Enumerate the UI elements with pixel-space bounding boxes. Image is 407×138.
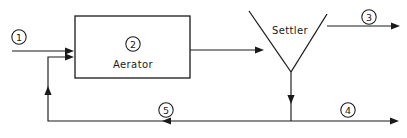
stream-3-effluent: 3 (327, 10, 400, 30)
stream-settler-underflow (287, 72, 294, 121)
tag-label-4: 4 (345, 105, 351, 116)
tag-label-3: 3 (366, 12, 372, 23)
stream-3-arrowhead (391, 22, 400, 29)
stream-4-arrowhead (390, 117, 399, 124)
tag-label-1: 1 (16, 32, 22, 43)
stream-5-arrowhead-riser (44, 86, 51, 95)
aerator-unit-label: Aerator (113, 59, 153, 70)
stream-3-tag-marker: 3 (362, 10, 376, 24)
stream-1-tag-marker: 1 (12, 30, 26, 44)
stream-5-arrowhead-inlet (65, 53, 74, 60)
tag-label-5: 5 (163, 105, 169, 116)
flow-diagram-canvas: 2 Aerator Settler 1 (0, 0, 407, 138)
stream-1-influent: 1 (12, 30, 74, 55)
settler-right-wall (291, 14, 327, 72)
stream-5-recycle-sludge: 5 (44, 53, 291, 124)
stream-1-arrowhead (65, 47, 74, 54)
stream-5-tag-marker: 5 (159, 103, 173, 117)
stream-4-waste-sludge: 4 (291, 103, 399, 125)
stream-4-tag-marker: 4 (341, 103, 355, 117)
unit-settler: Settler (249, 11, 327, 72)
settler-left-wall (249, 11, 291, 72)
unit-aerator: 2 Aerator (75, 16, 190, 78)
tag-label-2: 2 (130, 39, 136, 50)
stream-aerator-outlet (190, 46, 264, 53)
process-flow-diagram: 2 Aerator Settler 1 (0, 0, 407, 138)
stream-5-arrowhead-bottom (162, 117, 171, 124)
aerator-tag-marker: 2 (126, 37, 140, 51)
settler-unit-label: Settler (272, 25, 309, 36)
settler-underflow-arrowhead (287, 95, 294, 104)
aerator-outlet-arrowhead (255, 46, 264, 53)
